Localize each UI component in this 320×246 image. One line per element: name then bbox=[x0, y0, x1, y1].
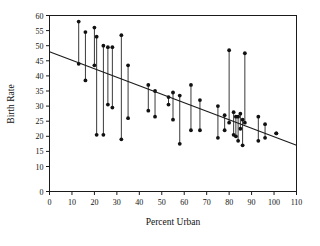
plot-background bbox=[0, 0, 320, 246]
x-tick-label-100: 100 bbox=[268, 198, 280, 207]
data-point bbox=[238, 112, 242, 116]
x-tick-label-30: 30 bbox=[113, 198, 121, 207]
y-tick-label-45: 45 bbox=[36, 57, 44, 66]
data-point bbox=[234, 134, 238, 138]
x-tick-label-80: 80 bbox=[225, 198, 233, 207]
data-point bbox=[101, 133, 105, 137]
data-point bbox=[236, 115, 240, 119]
data-point bbox=[167, 103, 171, 107]
y-tick-label-60: 60 bbox=[36, 12, 44, 21]
y-tick-label-50: 50 bbox=[36, 42, 44, 51]
x-tick-label-10: 10 bbox=[68, 198, 76, 207]
data-point bbox=[101, 44, 105, 48]
y-tick-label-35: 35 bbox=[36, 87, 44, 96]
data-point bbox=[216, 136, 220, 140]
x-tick-label-60: 60 bbox=[180, 198, 188, 207]
data-point bbox=[171, 118, 175, 122]
data-point bbox=[198, 128, 202, 132]
x-tick-label-40: 40 bbox=[135, 198, 143, 207]
y-tick-label-30: 30 bbox=[36, 102, 44, 111]
data-point bbox=[189, 128, 193, 132]
data-point bbox=[198, 98, 202, 102]
x-axis-title: Percent Urban bbox=[146, 217, 201, 227]
data-point bbox=[126, 116, 130, 120]
birth-rate-vs-percent-urban-scatter-plot: 0102030405060708090100110 01015202530354… bbox=[0, 0, 320, 246]
data-point bbox=[189, 83, 193, 87]
x-tick-label-90: 90 bbox=[248, 198, 256, 207]
data-point bbox=[93, 26, 97, 30]
y-axis-title: Birth Rate bbox=[6, 84, 16, 123]
data-point bbox=[119, 137, 123, 141]
data-point bbox=[126, 63, 130, 67]
data-point bbox=[232, 110, 236, 114]
data-point bbox=[171, 91, 175, 95]
data-point bbox=[263, 136, 267, 140]
y-tick-label-25: 25 bbox=[36, 117, 44, 126]
data-point bbox=[243, 121, 247, 125]
y-tick-label-15: 15 bbox=[36, 147, 44, 156]
data-point bbox=[256, 139, 260, 143]
data-point bbox=[106, 45, 110, 49]
data-point bbox=[227, 48, 231, 52]
y-tick-label-55: 55 bbox=[36, 27, 44, 36]
x-tick-label-50: 50 bbox=[158, 198, 166, 207]
data-point bbox=[106, 103, 110, 107]
data-point bbox=[216, 104, 220, 108]
x-tick-label-20: 20 bbox=[90, 198, 98, 207]
data-point bbox=[119, 33, 123, 37]
data-point bbox=[274, 131, 278, 135]
data-point bbox=[84, 30, 88, 34]
y-tick-label-20: 20 bbox=[36, 132, 44, 141]
data-point bbox=[153, 115, 157, 119]
data-point bbox=[178, 94, 182, 98]
x-tick-label-110: 110 bbox=[291, 198, 303, 207]
y-tick-label-40: 40 bbox=[36, 72, 44, 81]
y-tick-label-10: 10 bbox=[36, 163, 44, 172]
data-point bbox=[243, 51, 247, 55]
data-point bbox=[241, 118, 245, 122]
data-point bbox=[110, 45, 114, 49]
data-point bbox=[146, 109, 150, 113]
data-point bbox=[95, 35, 99, 39]
data-point bbox=[238, 127, 242, 131]
data-point bbox=[241, 143, 245, 147]
data-point bbox=[84, 79, 88, 83]
data-point bbox=[263, 122, 267, 126]
data-point bbox=[223, 128, 227, 132]
data-point bbox=[223, 113, 227, 117]
data-point bbox=[178, 142, 182, 146]
chart-figure: 0102030405060708090100110 01015202530354… bbox=[0, 0, 320, 246]
data-point bbox=[236, 139, 240, 143]
y-tick-label-0: 0 bbox=[40, 188, 44, 197]
data-point bbox=[110, 106, 114, 110]
data-point bbox=[256, 115, 260, 119]
data-point bbox=[146, 83, 150, 87]
data-point bbox=[227, 121, 231, 125]
data-point bbox=[93, 63, 97, 67]
x-tick-label-0: 0 bbox=[48, 198, 52, 207]
data-point bbox=[77, 20, 81, 24]
x-tick-label-70: 70 bbox=[203, 198, 211, 207]
data-point bbox=[95, 133, 99, 137]
